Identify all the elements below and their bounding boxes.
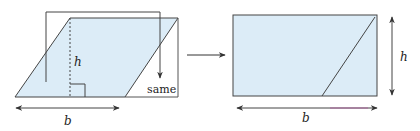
height-label-left: h — [74, 55, 82, 69]
left-figure: h same b — [15, 12, 178, 128]
base-label-right: b — [302, 111, 310, 125]
base-label-left: b — [64, 114, 72, 128]
rectangle-shape — [233, 15, 377, 96]
right-figure: h b — [233, 15, 408, 125]
diagram-canvas: h same b h b — [0, 0, 420, 131]
height-label-right: h — [400, 50, 408, 64]
same-label: same — [147, 83, 176, 96]
